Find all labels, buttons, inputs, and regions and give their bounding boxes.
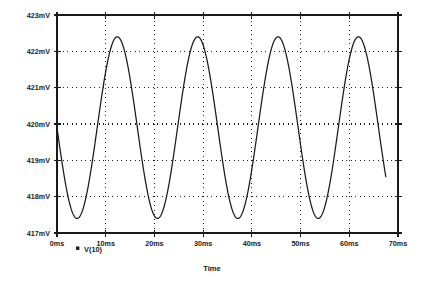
y-tick-label-423: 423mV bbox=[27, 11, 50, 20]
y-tick-label-421: 421mV bbox=[27, 83, 50, 92]
x-tick-label-60: 60ms bbox=[340, 239, 358, 248]
spice-waveform-plot: 417mV418mV419mV420mV421mV422mV423mV 0ms1… bbox=[0, 0, 425, 283]
x-tick-label-50: 50ms bbox=[291, 239, 309, 248]
x-axis-title: Time bbox=[203, 264, 221, 273]
y-tick-label-422: 422mV bbox=[27, 47, 50, 56]
legend-label-v10[interactable]: V(10) bbox=[84, 245, 103, 254]
x-tick-label-20: 20ms bbox=[145, 239, 163, 248]
x-tick-label-40: 40ms bbox=[243, 239, 261, 248]
y-tick-label-420: 420mV bbox=[27, 120, 50, 129]
x-tick-label-0: 0ms bbox=[50, 239, 64, 248]
y-tick-label-418: 418mV bbox=[27, 192, 50, 201]
chart-canvas: 417mV418mV419mV420mV421mV422mV423mV 0ms1… bbox=[0, 0, 425, 283]
x-tick-label-30: 30ms bbox=[194, 239, 212, 248]
legend-marker-icon bbox=[76, 247, 79, 250]
y-axis-tick-labels: 417mV418mV419mV420mV421mV422mV423mV bbox=[27, 11, 50, 238]
y-tick-label-417: 417mV bbox=[27, 229, 50, 238]
y-tick-label-419: 419mV bbox=[27, 156, 50, 165]
x-tick-label-70: 70ms bbox=[389, 239, 407, 248]
x-axis-tick-labels: 0ms10ms20ms30ms40ms50ms60ms70ms bbox=[50, 239, 407, 248]
